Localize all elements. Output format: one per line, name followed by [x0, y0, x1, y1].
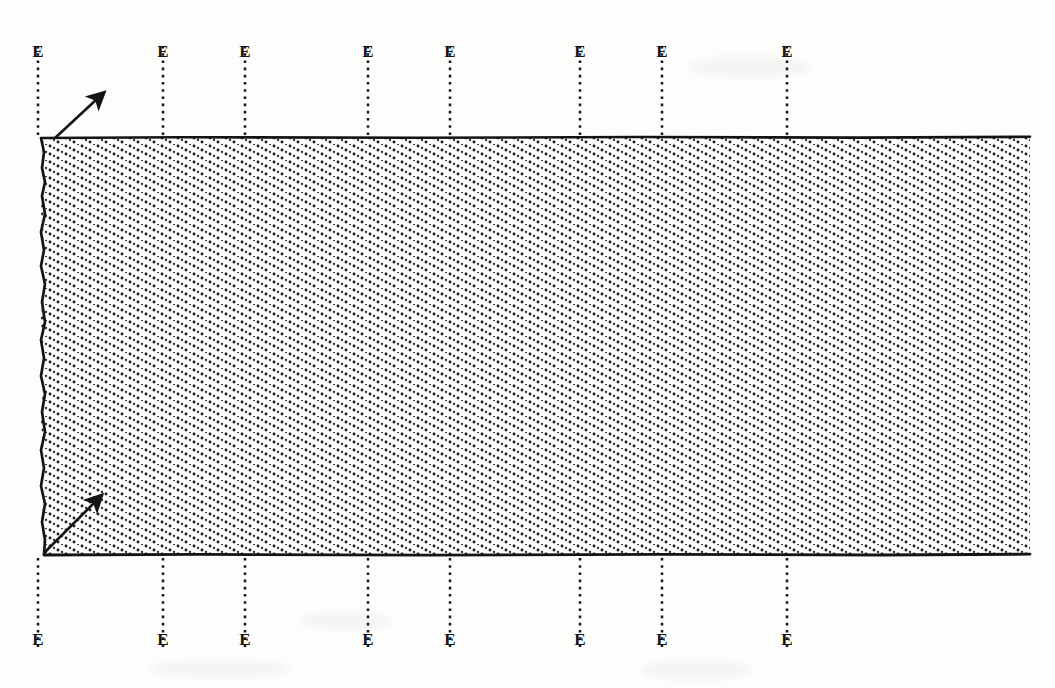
tick-label-group-bottom: E E E E E E E E	[32, 630, 792, 649]
shaded-region-group	[41, 137, 1030, 555]
tick-label-bottom: E	[444, 630, 455, 649]
shaded-region-bottom-border	[44, 554, 1030, 555]
tick-label-bottom: E	[574, 630, 585, 649]
tick-label-top: E	[32, 42, 43, 61]
tick-label-bottom: E	[656, 630, 667, 649]
figure-root: E E E E E E E E E E E E E E E E	[0, 0, 1055, 688]
tick-label-top: E	[574, 42, 585, 61]
upper-callout-arrow	[55, 99, 97, 138]
diagram-canvas: E E E E E E E E E E E E E E E E	[0, 0, 1055, 688]
tick-label-bottom: E	[239, 630, 250, 649]
tick-label-top: E	[239, 42, 250, 61]
shaded-region-fill	[41, 137, 1030, 555]
tick-label-top: E	[781, 42, 792, 61]
tick-label-top: E	[157, 42, 168, 61]
tick-label-bottom: E	[32, 630, 43, 649]
tick-label-group-top: E E E E E E E E	[32, 42, 792, 61]
tick-label-top: E	[362, 42, 373, 61]
tick-label-top: E	[656, 42, 667, 61]
shaded-region-top-border	[41, 137, 1030, 138]
tick-label-bottom: E	[781, 630, 792, 649]
tick-label-top: E	[444, 42, 455, 61]
tick-label-bottom: E	[362, 630, 373, 649]
tick-label-bottom: E	[157, 630, 168, 649]
